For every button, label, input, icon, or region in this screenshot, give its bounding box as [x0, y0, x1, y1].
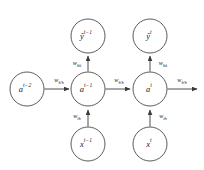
node-hidden-prev-circle: [71, 72, 105, 106]
node-hidden-prev: at−1: [71, 72, 105, 106]
diagram-canvas: at−2 at−1 at ŷt−1 ŷt xt−1: [0, 0, 204, 170]
node-input-cur: xt: [133, 127, 167, 161]
node-hidden-prev2-circle: [10, 72, 44, 106]
edge-label-recurrent-out-right: wh′h: [177, 76, 187, 84]
node-hidden-prev2: at−2: [10, 72, 44, 106]
edge-label-recurrent-middle: wh′h: [114, 76, 124, 84]
node-output-prev: ŷt−1: [71, 19, 105, 53]
edge-label-hidden-to-output-cur: whk: [159, 59, 168, 67]
edge-label-hidden-to-output-prev: whk: [73, 59, 82, 67]
node-input-prev-circle: [71, 127, 105, 161]
node-hidden-cur: at: [133, 72, 167, 106]
rnn-unfolded-diagram: at−2 at−1 at ŷt−1 ŷt xt−1: [0, 0, 204, 170]
node-output-prev-circle: [71, 19, 105, 53]
edge-label-input-to-hidden-prev: wih: [73, 112, 81, 120]
node-input-prev: xt−1: [71, 127, 105, 161]
node-output-cur: ŷt: [133, 19, 167, 53]
edge-label-input-to-hidden-cur: wih: [159, 112, 167, 120]
edge-label-recurrent-in-left: wh′h: [54, 76, 64, 84]
